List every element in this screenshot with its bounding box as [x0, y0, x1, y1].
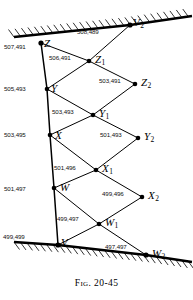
- node-label-Y2: Y2: [144, 131, 154, 144]
- node-label-text: W: [152, 247, 161, 259]
- node-label-X1: X1: [102, 163, 113, 176]
- lower-ground-hatching: [14, 242, 193, 269]
- node-label-W2: W2: [152, 248, 165, 261]
- node-label-subscript: 2: [140, 21, 144, 30]
- coordinate-label-V2: 508,489: [77, 29, 99, 35]
- node-marker-X1: [94, 168, 99, 173]
- node-marker-X: [48, 133, 53, 138]
- node-label-W1: W1: [105, 217, 118, 230]
- node-label-Z1: Z1: [95, 54, 105, 67]
- node-marker-W: [52, 186, 57, 191]
- node-label-text: Y: [51, 82, 57, 94]
- node-marker-Z1: [87, 59, 92, 64]
- node-label-Y: Y: [51, 83, 57, 94]
- node-label-text: X: [55, 129, 62, 141]
- coordinate-label-X: 503,495: [4, 132, 26, 138]
- coordinate-label-X1: 501,496: [54, 165, 76, 171]
- node-marker-Z: [38, 40, 43, 45]
- node-label-subscript: 1: [105, 112, 109, 121]
- node-label-subscript: 2: [155, 194, 159, 203]
- coordinate-label-X2: 499,496: [102, 191, 124, 197]
- node-label-subscript: 1: [109, 167, 113, 176]
- node-marker-V2: [127, 22, 132, 27]
- node-label-subscript: 2: [161, 252, 165, 261]
- node-label-text: W: [105, 216, 114, 228]
- coordinate-label-V: 499,499: [3, 234, 25, 240]
- node-marker-W1: [97, 222, 102, 227]
- node-label-text: W: [60, 181, 69, 193]
- coordinate-label-Z1: 506,491: [49, 55, 71, 61]
- node-label-text: V: [61, 236, 68, 248]
- coordinate-label-W: 501,497: [4, 186, 26, 192]
- figure-20-45: 507,491Z508,489V2506,491Z1503,491Z2505,4…: [0, 0, 193, 300]
- node-label-Y1: Y1: [99, 108, 109, 121]
- node-marker-W2: [143, 252, 148, 257]
- node-marker-X2: [140, 195, 145, 200]
- node-label-subscript: 1: [114, 221, 118, 230]
- node-label-text: X: [102, 162, 109, 174]
- node-marker-Z2: [133, 82, 138, 87]
- node-label-text: V: [133, 16, 140, 28]
- node-marker-Y1: [91, 113, 96, 118]
- node-label-subscript: 2: [147, 81, 151, 90]
- coordinate-label-W1: 499,497: [57, 216, 79, 222]
- node-label-X2: X2: [148, 190, 159, 203]
- node-marker-Y2: [136, 136, 141, 141]
- node-marker-V: [55, 242, 60, 247]
- coordinate-label-Z2: 503,491: [99, 78, 121, 84]
- node-label-Z: Z: [44, 38, 50, 49]
- coordinate-label-Z: 507,491: [4, 44, 26, 50]
- node-label-text: Z: [44, 37, 50, 49]
- coordinate-label-Y1: 503,493: [52, 109, 74, 115]
- node-label-V: V: [61, 237, 68, 248]
- node-label-Z2: Z2: [141, 77, 151, 90]
- node-label-subscript: 1: [101, 58, 105, 67]
- node-label-V2: V2: [133, 17, 144, 30]
- coordinate-label-Y: 505,493: [4, 86, 26, 92]
- node-label-X: X: [55, 130, 62, 141]
- figure-caption: Fig. 20-45: [0, 278, 193, 288]
- coordinate-label-Y2: 501,493: [100, 132, 122, 138]
- left-chord-member: [41, 43, 58, 245]
- node-label-text: X: [148, 189, 155, 201]
- node-label-W: W: [60, 182, 69, 193]
- coordinate-label-W2: 497,497: [105, 244, 127, 250]
- node-marker-Y: [45, 87, 50, 92]
- node-label-subscript: 2: [150, 135, 154, 144]
